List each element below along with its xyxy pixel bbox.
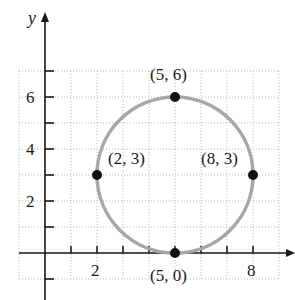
point-label-5-0: (5, 0) <box>150 266 187 285</box>
y-tick-label-6: 6 <box>26 88 35 107</box>
chart-container: y 2 8 2 4 6 (5, 6) (2, 3) (8, 3) (5, 0) <box>0 0 295 300</box>
y-tick-label-2: 2 <box>26 192 35 211</box>
point-label-8-3: (8, 3) <box>201 149 238 168</box>
point-label-2-3: (2, 3) <box>108 149 145 168</box>
data-point <box>170 92 180 102</box>
x-axis-arrow-icon <box>286 249 295 257</box>
chart-svg: y 2 8 2 4 6 (5, 6) (2, 3) (8, 3) (5, 0) <box>0 0 295 300</box>
x-tick-label-2: 2 <box>91 261 100 280</box>
data-point <box>92 170 102 180</box>
y-axis-label: y <box>26 8 36 28</box>
x-tick-label-8: 8 <box>247 261 256 280</box>
point-label-5-6: (5, 6) <box>150 65 187 84</box>
data-point <box>248 170 258 180</box>
data-point <box>170 248 180 258</box>
axes <box>19 20 288 300</box>
y-tick-label-4: 4 <box>26 140 35 159</box>
y-axis-arrow-icon <box>41 12 49 22</box>
